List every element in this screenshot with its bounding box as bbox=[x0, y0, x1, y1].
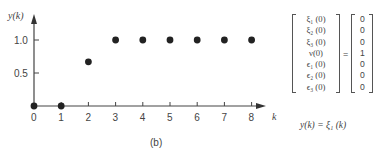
state-variable: ξ₁ (0) bbox=[296, 14, 336, 25]
x-tick-label: 5 bbox=[167, 112, 173, 123]
x-tick-label: 3 bbox=[113, 112, 119, 123]
x-tick-label: 1 bbox=[58, 112, 64, 123]
state-value: 0 bbox=[355, 37, 369, 48]
x-axis-arrow-icon bbox=[256, 103, 266, 109]
equals-sign: = bbox=[343, 49, 348, 59]
y-axis-arrow-icon bbox=[31, 14, 37, 24]
state-variable: ν(0) bbox=[296, 48, 336, 59]
state-value: 0 bbox=[355, 59, 369, 70]
data-point bbox=[248, 37, 255, 44]
data-points bbox=[31, 37, 255, 110]
data-point bbox=[167, 37, 174, 44]
data-point bbox=[31, 103, 38, 110]
panel-label: (b) bbox=[150, 137, 162, 148]
y-tick-label: 0.5 bbox=[14, 68, 28, 79]
state-value: 0 bbox=[355, 25, 369, 36]
data-point bbox=[221, 37, 228, 44]
state-value: 1 bbox=[355, 48, 369, 59]
x-tick-label: 2 bbox=[85, 112, 91, 123]
x-tick-label: 7 bbox=[221, 112, 227, 123]
x-axis-title: k bbox=[272, 111, 277, 122]
state-variable: ξ₃ (0) bbox=[296, 37, 336, 48]
state-variable: ξ₂ (0) bbox=[296, 25, 336, 36]
initial-state-equation: ξ₁ (0)ξ₂ (0)ξ₃ (0)ν(0)ϵ₁ (0)ϵ₂ (0)ϵ₃ (0)… bbox=[292, 14, 373, 93]
y-ticks: 0.51.0 bbox=[14, 35, 39, 79]
state-value: 0 bbox=[355, 14, 369, 25]
state-variable: ϵ₁ (0) bbox=[296, 59, 336, 70]
state-vector-rhs: 0001000 bbox=[351, 14, 373, 93]
x-tick-label: 0 bbox=[31, 112, 37, 123]
state-vector-lhs: ξ₁ (0)ξ₂ (0)ξ₃ (0)ν(0)ϵ₁ (0)ϵ₂ (0)ϵ₃ (0) bbox=[292, 14, 340, 93]
y-tick-label: 1.0 bbox=[14, 35, 28, 46]
data-point bbox=[85, 58, 92, 65]
data-point bbox=[139, 37, 146, 44]
data-point bbox=[58, 103, 65, 110]
state-value: 0 bbox=[355, 70, 369, 81]
state-variable: ϵ₂ (0) bbox=[296, 70, 336, 81]
data-point bbox=[194, 37, 201, 44]
state-value: 0 bbox=[355, 82, 369, 93]
data-point bbox=[112, 37, 119, 44]
x-tick-label: 4 bbox=[140, 112, 146, 123]
output-equation: y(k) = ξ₁ (k) bbox=[300, 120, 346, 130]
state-variable: ϵ₃ (0) bbox=[296, 82, 336, 93]
x-tick-label: 8 bbox=[249, 112, 255, 123]
x-ticks: 012345678 bbox=[31, 102, 255, 123]
x-tick-label: 6 bbox=[194, 112, 200, 123]
y-axis-title: y(k) bbox=[7, 10, 24, 22]
